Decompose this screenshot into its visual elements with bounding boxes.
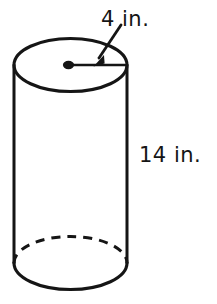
cylinder-figure: 4 in. 14 in. — [0, 0, 217, 304]
cylinder-bottom-front-arc — [14, 263, 127, 290]
cylinder-bottom-hidden-arc — [14, 237, 127, 264]
radius-dimension-label: 4 in. — [101, 9, 149, 30]
height-dimension-label: 14 in. — [139, 145, 201, 166]
center-point-dot — [63, 61, 74, 69]
